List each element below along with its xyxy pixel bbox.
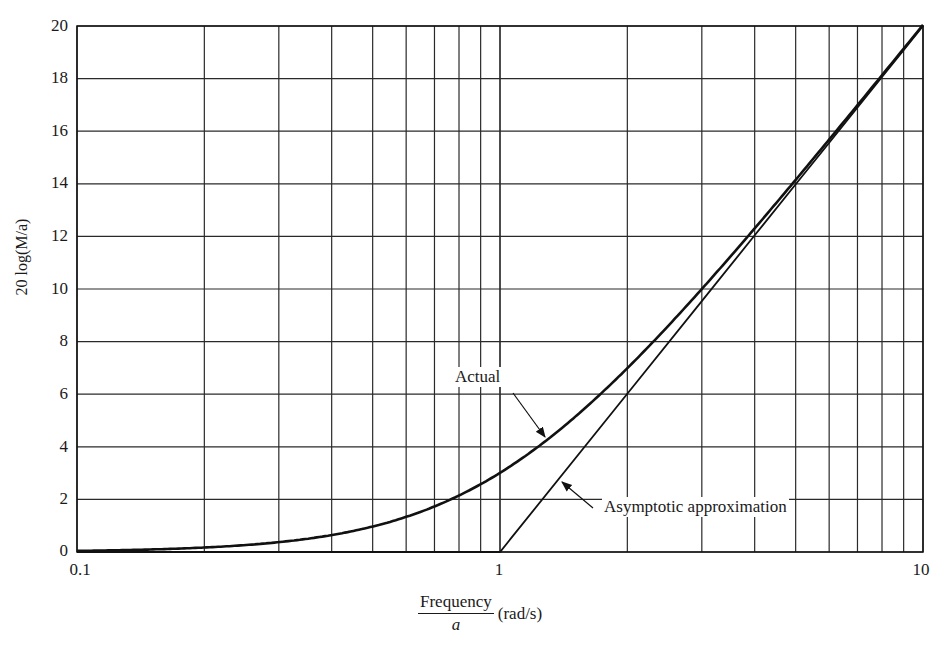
y-tick-16: 16	[28, 121, 68, 141]
arrow-asymptotic	[562, 482, 593, 508]
x-axis-numerator: Frequency	[418, 592, 494, 614]
x-axis-unit: (rad/s)	[498, 604, 542, 624]
y-tick-6: 6	[28, 384, 68, 404]
annotation-actual: Actual	[453, 367, 502, 387]
y-axis-label: 20 log(M/a)	[13, 197, 31, 317]
annotation-asymptotic: Asymptotic approximation	[602, 497, 789, 517]
x-tick-10: 10	[901, 560, 940, 580]
y-tick-14: 14	[28, 173, 68, 193]
x-axis-denominator: a	[418, 614, 494, 635]
y-tick-8: 8	[28, 331, 68, 351]
arrow-actual	[513, 393, 545, 437]
y-tick-10: 10	[28, 279, 68, 299]
x-axis-label: Frequency a (rad/s)	[418, 592, 542, 635]
y-tick-2: 2	[28, 489, 68, 509]
y-tick-12: 12	[28, 226, 68, 246]
bode-magnitude-chart: 20 18 16 14 12 10 8 6 4 2 0 0.1 1 10 20 …	[0, 0, 940, 645]
x-tick-1: 1	[479, 560, 519, 580]
y-tick-20: 20	[28, 16, 68, 36]
x-tick-0.1: 0.1	[60, 560, 100, 580]
y-tick-0: 0	[28, 541, 68, 561]
y-tick-18: 18	[28, 68, 68, 88]
x-axis-fraction: Frequency a	[418, 592, 494, 635]
y-tick-4: 4	[28, 437, 68, 457]
plot-area	[0, 0, 940, 645]
